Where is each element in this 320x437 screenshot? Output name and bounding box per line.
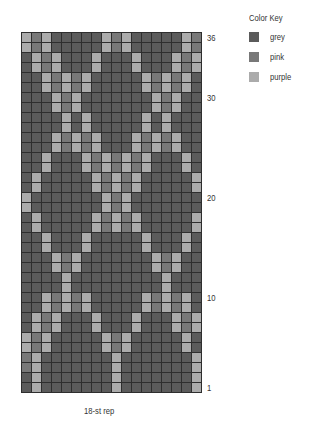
- chart-cell: [52, 373, 62, 383]
- chart-cell: [112, 263, 122, 273]
- chart-cell: [42, 143, 52, 153]
- chart-cell: [52, 243, 62, 253]
- chart-cell: [172, 53, 182, 63]
- chart-cell: [142, 273, 152, 283]
- chart-cell: [132, 183, 142, 193]
- chart-cell: [62, 153, 72, 163]
- chart-cell: [182, 363, 192, 373]
- chart-cell: [142, 173, 152, 183]
- chart-cell: [162, 103, 172, 113]
- chart-cell: [142, 153, 152, 163]
- chart-cell: [132, 263, 142, 273]
- chart-cell: [82, 103, 92, 113]
- chart-cell: [162, 123, 172, 133]
- chart-cell: [192, 153, 202, 163]
- chart-cell: [92, 163, 102, 173]
- chart-cell: [42, 123, 52, 133]
- chart-cell: [182, 143, 192, 153]
- chart-cell: [102, 123, 112, 133]
- chart-cell: [192, 163, 202, 173]
- chart-cell: [102, 353, 112, 363]
- chart-cell: [82, 203, 92, 213]
- chart-cell: [92, 133, 102, 143]
- chart-cell: [42, 283, 52, 293]
- chart-cell: [192, 243, 202, 253]
- chart-cell: [52, 193, 62, 203]
- chart-cell: [172, 73, 182, 83]
- chart-cell: [82, 153, 92, 163]
- chart-cell: [72, 373, 82, 383]
- legend-label-purple: purple: [270, 72, 291, 82]
- chart-cell: [162, 303, 172, 313]
- chart-cell: [152, 43, 162, 53]
- legend-label-grey: grey: [270, 32, 285, 42]
- chart-cell: [92, 253, 102, 263]
- chart-cell: [102, 143, 112, 153]
- chart-cell: [22, 353, 32, 363]
- chart-cell: [152, 143, 162, 153]
- chart-cell: [182, 233, 192, 243]
- chart-cell: [132, 83, 142, 93]
- chart-cell: [92, 153, 102, 163]
- chart-cell: [172, 223, 182, 233]
- chart-cell: [62, 323, 72, 333]
- chart-cell: [112, 363, 122, 373]
- chart-cell: [192, 253, 202, 263]
- chart-cell: [52, 313, 62, 323]
- chart-cell: [22, 73, 32, 83]
- chart-cell: [82, 303, 92, 313]
- chart-cell: [22, 323, 32, 333]
- chart-cell: [82, 173, 92, 183]
- chart-cell: [72, 73, 82, 83]
- chart-cell: [112, 333, 122, 343]
- chart-cell: [92, 213, 102, 223]
- chart-cell: [92, 273, 102, 283]
- chart-cell: [52, 73, 62, 83]
- chart-cell: [42, 373, 52, 383]
- chart-cell: [192, 33, 202, 43]
- chart-cell: [132, 243, 142, 253]
- chart-cell: [102, 363, 112, 373]
- chart-cell: [92, 73, 102, 83]
- chart-cell: [102, 293, 112, 303]
- chart-cell: [112, 343, 122, 353]
- chart-cell: [192, 293, 202, 303]
- chart-cell: [22, 103, 32, 113]
- chart-cell: [32, 283, 42, 293]
- chart-cell: [182, 223, 192, 233]
- chart-cell: [132, 253, 142, 263]
- chart-cell: [52, 153, 62, 163]
- chart-cell: [172, 103, 182, 113]
- chart-cell: [182, 353, 192, 363]
- chart-cell: [92, 303, 102, 313]
- chart-cell: [32, 363, 42, 373]
- chart-cell: [62, 163, 72, 173]
- chart-cell: [192, 223, 202, 233]
- chart-cell: [112, 253, 122, 263]
- chart-cell: [142, 253, 152, 263]
- chart-cell: [142, 263, 152, 273]
- chart-cell: [22, 83, 32, 93]
- chart-cell: [122, 323, 132, 333]
- chart-cell: [182, 303, 192, 313]
- chart-cell: [72, 193, 82, 203]
- chart-cell: [42, 343, 52, 353]
- chart-cell: [182, 333, 192, 343]
- chart-cell: [142, 203, 152, 213]
- chart-cell: [162, 73, 172, 83]
- chart-cell: [192, 283, 202, 293]
- chart-cell: [92, 103, 102, 113]
- chart-cell: [22, 263, 32, 273]
- chart-cell: [192, 93, 202, 103]
- chart-cell: [42, 353, 52, 363]
- knitting-chart-grid: [21, 32, 202, 393]
- chart-cell: [152, 173, 162, 183]
- chart-cell: [42, 113, 52, 123]
- chart-cell: [32, 333, 42, 343]
- chart-cell: [62, 283, 72, 293]
- chart-cell: [192, 263, 202, 273]
- chart-cell: [102, 133, 112, 143]
- chart-cell: [182, 243, 192, 253]
- chart-cell: [192, 63, 202, 73]
- chart-cell: [172, 273, 182, 283]
